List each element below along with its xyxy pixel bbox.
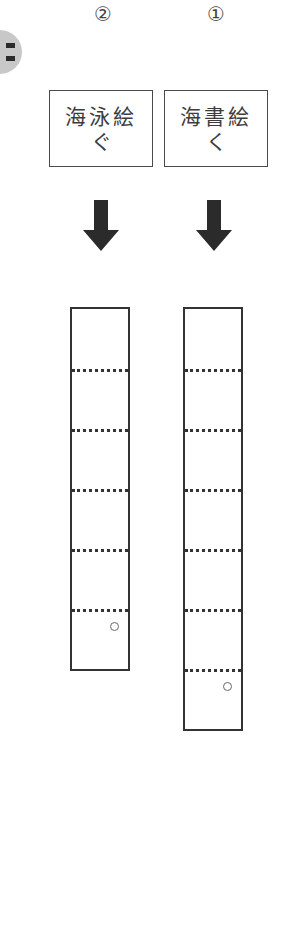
writing-cell[interactable] <box>72 489 128 549</box>
word-box-2: 海泳絵 ぐ <box>49 90 153 167</box>
writing-cell[interactable] <box>185 489 241 549</box>
exercise-number-2: ② <box>92 4 114 24</box>
writing-column-1[interactable] <box>183 307 243 731</box>
writing-column-2[interactable] <box>70 307 130 671</box>
writing-cell[interactable] <box>72 369 128 429</box>
down-arrow-icon <box>195 200 233 252</box>
word-box-1-line2: く <box>165 130 267 154</box>
badge-glyph-icon <box>6 41 15 63</box>
writing-cell[interactable] <box>185 549 241 609</box>
word-box-1: 海書絵 く <box>164 90 268 167</box>
word-box-2-line2: ぐ <box>50 130 152 154</box>
writing-cell-last[interactable] <box>185 669 241 729</box>
writing-cell[interactable] <box>185 429 241 489</box>
down-arrow-icon <box>82 200 120 252</box>
writing-cell[interactable] <box>72 549 128 609</box>
small-circle-marker-icon <box>223 682 232 691</box>
word-box-2-line1: 海泳絵 <box>50 104 152 130</box>
writing-cell[interactable] <box>185 609 241 669</box>
writing-cell[interactable] <box>185 369 241 429</box>
section-badge <box>0 30 22 74</box>
word-box-1-line1: 海書絵 <box>165 104 267 130</box>
small-circle-marker-icon <box>110 622 119 631</box>
writing-cell[interactable] <box>72 429 128 489</box>
exercise-number-1: ① <box>205 4 227 24</box>
writing-cell[interactable] <box>72 309 128 369</box>
writing-cell[interactable] <box>185 309 241 369</box>
writing-cell-last[interactable] <box>72 609 128 669</box>
